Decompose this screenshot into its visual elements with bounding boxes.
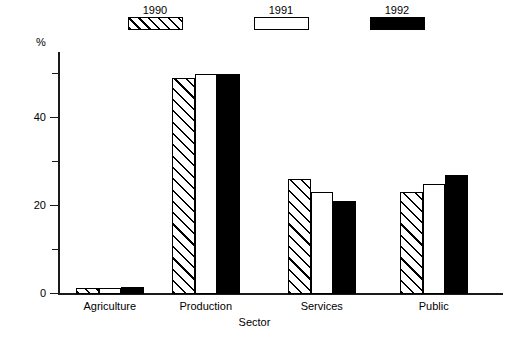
bar-services-1990 [288, 179, 311, 293]
bar-agriculture-1991 [99, 288, 122, 294]
plot-area: % 02040 Agriculture Production Services … [0, 0, 509, 338]
category-label-public: Public [379, 300, 489, 312]
chart-page: 1990 1991 1992 % 02040 Agriculture Produ… [0, 0, 509, 338]
category-label-services: Services [267, 300, 377, 312]
bar-public-1991 [423, 184, 446, 294]
bars-layer [0, 0, 509, 294]
bar-services-1991 [311, 192, 334, 293]
bar-agriculture-1992 [121, 287, 144, 294]
bar-production-1991 [195, 74, 218, 294]
category-label-production: Production [151, 300, 261, 312]
bar-production-1990 [172, 78, 195, 294]
bar-services-1992 [333, 201, 356, 293]
x-axis-label: Sector [0, 316, 509, 328]
bar-production-1992 [217, 74, 240, 294]
bar-public-1990 [400, 192, 423, 293]
category-label-agriculture: Agriculture [55, 300, 165, 312]
bar-public-1992 [445, 175, 468, 294]
bar-agriculture-1990 [76, 288, 99, 294]
